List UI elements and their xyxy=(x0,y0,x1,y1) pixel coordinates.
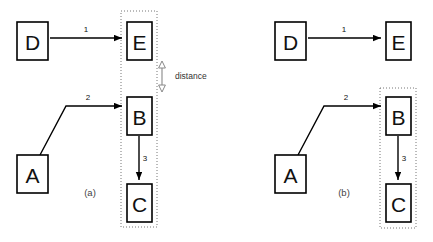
panel-b-node-e-label: E xyxy=(391,31,405,54)
panel-b-node-d-label: D xyxy=(283,31,298,54)
panel-a-caption: (a) xyxy=(84,187,96,198)
panel-b-node-a[interactable]: A xyxy=(275,155,306,193)
panel-a-node-d-label: D xyxy=(25,31,40,54)
panel-a: 123DEBCAdistance(a) xyxy=(17,11,207,227)
panel-a-edge-2-arrow xyxy=(40,106,122,155)
panel-b: 123DEBCA(b) xyxy=(275,22,416,228)
panel-b-edge-2-arrow xyxy=(298,106,381,155)
diagram-svg: 123DEBCAdistance(a)123DEBCA(b) xyxy=(0,0,433,242)
distance-measure-arrowhead-down-icon xyxy=(159,85,166,92)
panel-b-node-e[interactable]: E xyxy=(386,22,411,60)
panel-b-node-d[interactable]: D xyxy=(275,22,306,60)
panel-a-node-e-label: E xyxy=(132,31,146,54)
panel-a-node-e[interactable]: E xyxy=(127,22,152,60)
distance-measure: distance xyxy=(159,61,207,92)
panel-a-node-c-label: C xyxy=(132,193,147,216)
panel-b-node-b[interactable]: B xyxy=(386,97,411,135)
panel-a-node-b-label: B xyxy=(132,106,146,129)
panel-a-edge-3-label: 3 xyxy=(143,154,148,163)
panel-b-edge-3-label: 3 xyxy=(402,154,407,163)
distance-measure-arrowhead-up-icon xyxy=(159,61,166,68)
panel-b-node-c-label: C xyxy=(391,193,406,216)
panel-b-caption: (b) xyxy=(338,187,350,198)
panel-b-edge-2-label: 2 xyxy=(344,93,349,102)
figure-canvas: 123DEBCAdistance(a)123DEBCA(b) xyxy=(0,0,433,242)
panel-a-node-a-label: A xyxy=(25,164,39,187)
panel-a-edge-2-label: 2 xyxy=(86,93,91,102)
panel-a-node-c[interactable]: C xyxy=(127,184,152,222)
panel-a-node-b[interactable]: B xyxy=(127,97,152,135)
panel-b-edge-1-label: 1 xyxy=(342,25,347,34)
panel-b-node-c[interactable]: C xyxy=(386,184,411,222)
distance-measure-label: distance xyxy=(175,71,207,81)
panel-a-node-d[interactable]: D xyxy=(17,22,48,60)
panel-a-edge-1-label: 1 xyxy=(84,25,89,34)
panel-b-node-b-label: B xyxy=(391,106,405,129)
panel-b-node-a-label: A xyxy=(283,164,297,187)
panel-a-node-a[interactable]: A xyxy=(17,155,48,193)
